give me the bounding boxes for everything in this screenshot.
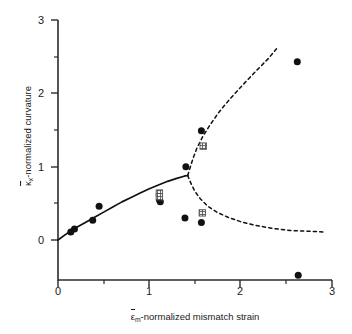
data-marker-circle [181, 215, 188, 222]
axis-spines [58, 20, 332, 280]
curve-2 [188, 175, 323, 231]
data-marker-circle [71, 226, 78, 233]
x-tick-label-1: 1 [146, 286, 152, 297]
data-marker-circle [182, 163, 189, 170]
curve-1 [188, 48, 278, 176]
data-marker-square [156, 194, 162, 200]
x-axis-title-rest: -normalized mismatch strain [141, 311, 260, 322]
data-marker-circle [198, 127, 205, 134]
x-axis-symbol: ε [131, 311, 135, 322]
x-tick-label-2: 2 [237, 286, 243, 297]
data-marker-circle [89, 217, 96, 224]
data-marker-circle [198, 219, 205, 226]
x-axis-subscript: m [135, 316, 141, 323]
y-axis-title-rest: -normalized curvature [22, 86, 33, 178]
data-marker-square [199, 210, 205, 216]
chart-figure: 0 1 2 3 0 1 2 3 εm-normalized mismatch s… [0, 0, 352, 334]
y-tick-label-3: 3 [30, 15, 44, 26]
data-marker-circle [295, 272, 302, 279]
y-tick-label-0: 0 [30, 235, 44, 246]
curve-layer [58, 48, 323, 240]
y-axis-symbol: κ [22, 181, 33, 186]
axes [51, 20, 332, 287]
data-marker-square [200, 143, 206, 149]
plot-canvas [0, 0, 352, 334]
x-tick-label-3: 3 [329, 286, 335, 297]
y-axis-title: κx-normalized curvature [22, 46, 34, 226]
data-marker-circle [294, 58, 301, 65]
data-marker-circle [96, 203, 103, 210]
x-tick-label-0: 0 [55, 286, 61, 297]
x-axis-title: εm-normalized mismatch strain [58, 311, 332, 323]
data-marker-layer [67, 58, 301, 278]
